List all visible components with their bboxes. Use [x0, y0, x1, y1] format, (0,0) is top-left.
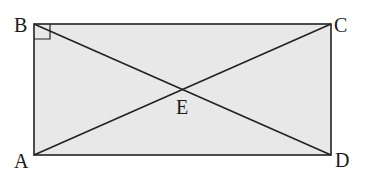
label-c: C: [334, 14, 347, 36]
label-e: E: [176, 96, 188, 118]
rectangle-diagram: B C A D E: [0, 0, 368, 177]
label-a: A: [14, 150, 29, 172]
label-d: D: [335, 149, 349, 171]
label-b: B: [14, 14, 27, 36]
